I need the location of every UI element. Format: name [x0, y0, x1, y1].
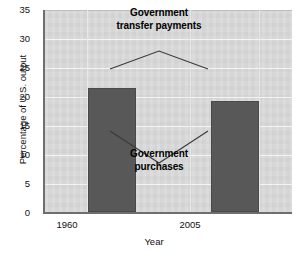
gridline-30: [45, 39, 292, 40]
annotation-transfer-line1: Government: [84, 7, 234, 20]
y-axis-title: Percentage of U.S. output: [17, 20, 28, 200]
plot-area: [43, 10, 292, 214]
vertical-gridline-2: [190, 10, 191, 212]
gridline-25: [45, 68, 292, 69]
annotation-transfer-line2: transfer payments: [84, 20, 234, 33]
x-tick-label-1960: 1960: [32, 219, 102, 230]
annotation-government-transfer-payments: Government transfer payments: [84, 7, 234, 32]
x-axis-title: Year: [0, 236, 308, 247]
y-tick-label-0: 0: [0, 208, 30, 218]
annotation-government-purchases: Government purchases: [84, 148, 234, 173]
gridline-20: [45, 97, 292, 98]
annotation-purchases-line1: Government: [84, 148, 234, 161]
bar-chart-figure: 35 30 25 20 15 10 5 0 Percentage of U.S.…: [0, 0, 308, 253]
y-tick-label-35: 35: [0, 5, 30, 15]
annotation-purchases-line2: purchases: [84, 161, 234, 174]
vertical-gridline-3: [259, 10, 260, 212]
x-tick-label-2005: 2005: [155, 219, 225, 230]
